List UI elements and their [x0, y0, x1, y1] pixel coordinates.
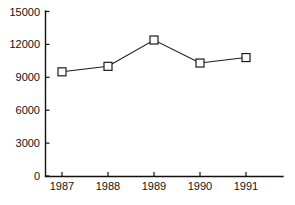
y-tick-label: 12000	[9, 38, 40, 50]
line-chart: 03000600090001200015000 1987198819891990…	[0, 0, 295, 205]
x-tick-label: 1990	[188, 180, 212, 192]
y-tick-label: 9000	[16, 71, 40, 83]
data-point-marker	[242, 54, 250, 62]
data-point-marker	[58, 68, 66, 76]
y-tick-label: 3000	[16, 137, 40, 149]
y-tick-label: 0	[34, 170, 40, 182]
series-markers	[58, 36, 250, 76]
data-point-marker	[104, 62, 112, 70]
data-point-marker	[196, 59, 204, 67]
y-tick-label: 6000	[16, 104, 40, 116]
x-axis-tick-labels: 19871988198919901991	[50, 180, 258, 192]
x-tick-label: 1989	[142, 180, 166, 192]
series-line-path	[62, 40, 246, 72]
x-tick-label: 1991	[234, 180, 258, 192]
chart-canvas: 03000600090001200015000 1987198819891990…	[0, 0, 295, 205]
y-axis-tick-labels: 03000600090001200015000	[9, 6, 40, 183]
x-tick-label: 1988	[96, 180, 120, 192]
x-tick-label: 1987	[50, 180, 74, 192]
data-point-marker	[150, 36, 158, 44]
x-axis-tick-marks	[62, 172, 246, 176]
y-tick-label: 15000	[9, 6, 40, 18]
